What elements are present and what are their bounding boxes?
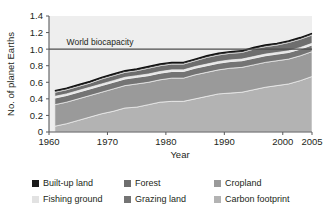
world-biocapacity-label: World biocapacity: [67, 37, 135, 47]
chart-plot-container: World biocapacity 00.20.40.60.81.01.21.4…: [0, 0, 329, 160]
legend-label-built-up-land: Built-up land: [43, 178, 93, 189]
legend-swatch-icon-carbon-footprint: [214, 196, 221, 203]
legend-label-cropland: Cropland: [225, 178, 262, 189]
legend-label-forest: Forest: [135, 178, 161, 189]
figure-stacked-area-ecological-footprint: World biocapacity 00.20.40.60.81.01.21.4…: [0, 0, 329, 218]
x-tick-label: 1980: [155, 136, 176, 147]
stacked-area-chart: World biocapacity 00.20.40.60.81.01.21.4…: [0, 0, 329, 160]
x-axis-title: Year: [170, 149, 189, 160]
y-tick-label: 0.8: [30, 60, 43, 71]
legend-label-carbon-footprint: Carbon footprint: [225, 194, 290, 205]
y-tick-label: 0.4: [30, 93, 43, 104]
y-tick-label: 1.4: [30, 10, 43, 21]
legend-item-grazing-land[interactable]: Grazing land: [124, 192, 214, 206]
y-axis-ticks: 00.20.40.60.81.01.21.4: [30, 10, 49, 137]
y-axis-title: No. of planet Earths: [5, 32, 16, 116]
y-tick-label: 0.6: [30, 77, 43, 88]
y-tick-label: 1.0: [30, 44, 43, 55]
legend-item-fishing-ground[interactable]: Fishing ground: [32, 192, 124, 206]
y-tick-label: 0.2: [30, 110, 43, 121]
legend-label-fishing-ground: Fishing ground: [43, 194, 103, 205]
legend-item-carbon-footprint[interactable]: Carbon footprint: [214, 192, 329, 206]
y-tick-label: 1.2: [30, 27, 43, 38]
x-tick-label: 1960: [38, 136, 59, 147]
legend-item-cropland[interactable]: Cropland: [214, 176, 329, 190]
x-tick-label: 2000: [272, 136, 293, 147]
x-tick-label: 1990: [214, 136, 235, 147]
legend-label-grazing-land: Grazing land: [135, 194, 186, 205]
x-tick-label: 1970: [97, 136, 118, 147]
x-axis-ticks: 196019701980199020002005: [38, 132, 322, 147]
legend-item-built-up-land[interactable]: Built-up land: [32, 176, 124, 190]
legend-swatch-icon-grazing-land: [124, 196, 131, 203]
legend-item-forest[interactable]: Forest: [124, 176, 214, 190]
legend-swatch-icon-cropland: [214, 180, 221, 187]
legend-swatch-icon-built-up-land: [32, 180, 39, 187]
x-tick-label: 2005: [301, 136, 322, 147]
legend-swatch-icon-fishing-ground: [32, 196, 39, 203]
chart-legend: Built-up land Forest Cropland Fishing gr…: [0, 176, 329, 206]
legend-swatch-icon-forest: [124, 180, 131, 187]
